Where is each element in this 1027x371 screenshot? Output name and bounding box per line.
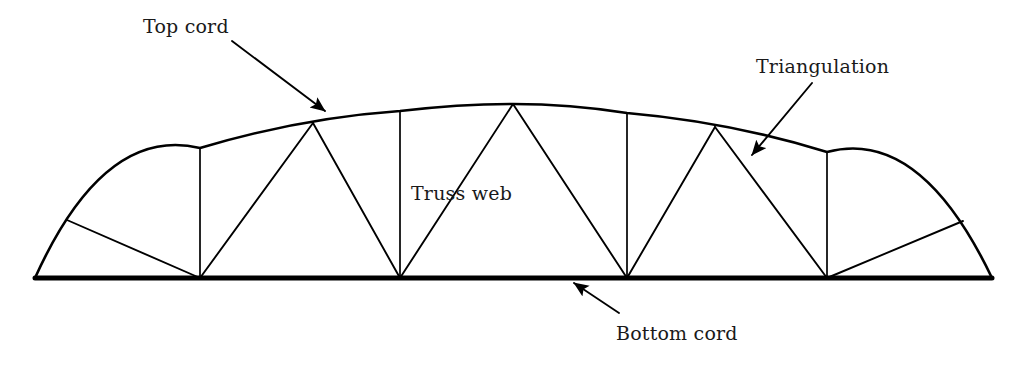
diagonal-member [513,104,627,278]
diagonal-member [67,220,200,278]
truss-diagram: Top cord Triangulation Truss web Bottom … [0,0,1027,371]
diagonal-member [715,127,827,278]
diagonal-member [313,123,400,278]
bottom-cord-arrow [574,283,619,313]
top-cord-arrow [232,41,325,111]
bottom-cord-label: Bottom cord [616,324,738,344]
diagonal-member [627,127,715,278]
diagonal-member [827,221,963,278]
truss-web-label: Truss web [411,184,512,204]
top-chord-arc [35,104,992,278]
top-cord-label: Top cord [143,17,229,37]
triangulation-label: Triangulation [756,57,889,77]
diagonal-member [200,123,313,278]
